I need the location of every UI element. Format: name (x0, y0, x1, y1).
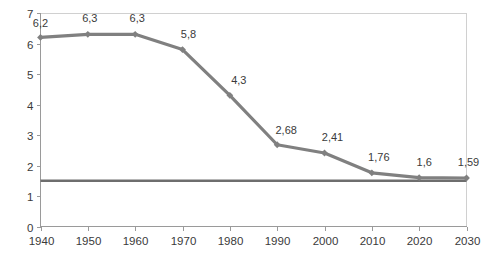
y-tick-label: 6 (27, 39, 33, 51)
data-point-label: 1,59 (458, 156, 479, 168)
data-point-label: 2,41 (322, 131, 343, 143)
y-tick-label: 4 (27, 100, 34, 112)
data-point-label: 4,3 (231, 74, 246, 86)
x-tick-label: 2000 (313, 235, 339, 247)
y-tick-label: 5 (27, 69, 33, 81)
chart-background (0, 0, 498, 274)
data-point-label: 2,68 (275, 124, 296, 136)
x-tick-label: 2010 (360, 235, 386, 247)
x-tick-label: 1940 (29, 235, 55, 247)
data-point-label: 1,6 (417, 156, 432, 168)
chart-container: 01234567 1940195019601970198019902000201… (0, 0, 498, 274)
data-point-label: 6,3 (82, 12, 97, 24)
data-point-label: 6,3 (130, 12, 145, 24)
x-tick-label: 2030 (455, 235, 481, 247)
y-tick-label: 0 (27, 222, 33, 234)
x-tick-label: 1980 (218, 235, 244, 247)
data-point-label: 1,76 (368, 151, 389, 163)
y-tick-label: 2 (27, 161, 33, 173)
line-chart: 01234567 1940195019601970198019902000201… (0, 0, 498, 274)
y-tick-label: 3 (27, 130, 33, 142)
x-tick-label: 2020 (407, 235, 433, 247)
data-point-label: 5,8 (181, 28, 196, 40)
x-tick-label: 1960 (123, 235, 149, 247)
data-point-label: 6,2 (33, 17, 48, 29)
y-tick-label: 1 (27, 191, 33, 203)
x-tick-label: 1950 (76, 235, 102, 247)
x-tick-label: 1990 (265, 235, 291, 247)
x-tick-label: 1970 (171, 235, 197, 247)
